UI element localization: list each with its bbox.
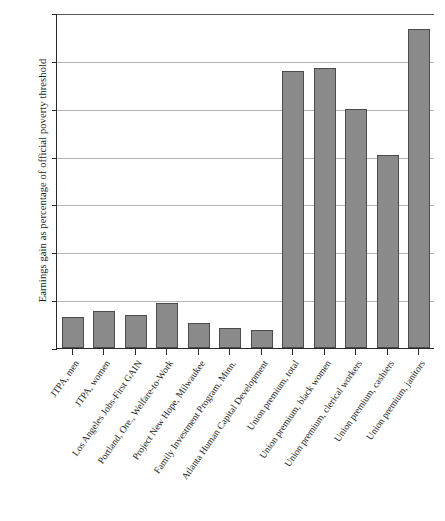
- bar: [314, 68, 336, 348]
- x-tick-mark: [418, 349, 419, 355]
- y-tick-mark-60: [52, 62, 57, 63]
- bar: [251, 330, 273, 348]
- bar: [188, 323, 210, 348]
- bar-chart: Earnings gain as percentage of official …: [0, 0, 445, 521]
- x-tick-mark: [166, 349, 167, 355]
- y-tick-mark-10: [52, 301, 57, 302]
- x-tick-mark: [135, 349, 136, 355]
- bar: [282, 71, 304, 348]
- y-tick-mark-40: [52, 158, 57, 159]
- gridline-70: [57, 14, 434, 15]
- x-tick-mark: [292, 349, 293, 355]
- bar: [62, 317, 84, 348]
- x-tick-label: JTPA, men: [47, 358, 80, 399]
- gridline-50: [57, 110, 434, 111]
- y-tick-mark-50: [52, 110, 57, 111]
- plot-area: 010203040506070: [56, 14, 434, 349]
- bar: [125, 315, 147, 348]
- y-axis-title: Earnings gain as percentage of official …: [37, 11, 48, 351]
- bar: [345, 109, 367, 348]
- x-tick-mark: [103, 349, 104, 355]
- y-tick-mark-70: [52, 14, 57, 15]
- x-tick-mark: [387, 349, 388, 355]
- gridline-60: [57, 62, 434, 63]
- bar: [156, 303, 178, 348]
- bar: [219, 328, 241, 348]
- x-tick-mark: [198, 349, 199, 355]
- bar: [408, 29, 430, 348]
- x-tick-mark: [229, 349, 230, 355]
- x-tick-mark: [261, 349, 262, 355]
- x-tick-mark: [72, 349, 73, 355]
- x-tick-label: Union premium, cashiers: [331, 358, 395, 444]
- y-tick-mark-30: [52, 205, 57, 206]
- bar: [93, 311, 115, 348]
- x-axis: JTPA, menJTPA, womenLos Angeles Jobs-Fir…: [56, 349, 434, 519]
- x-tick-label: Union premium, janitors: [364, 358, 427, 442]
- x-tick-mark: [355, 349, 356, 355]
- y-tick-mark-20: [52, 253, 57, 254]
- bar: [377, 155, 399, 348]
- x-tick-mark: [324, 349, 325, 355]
